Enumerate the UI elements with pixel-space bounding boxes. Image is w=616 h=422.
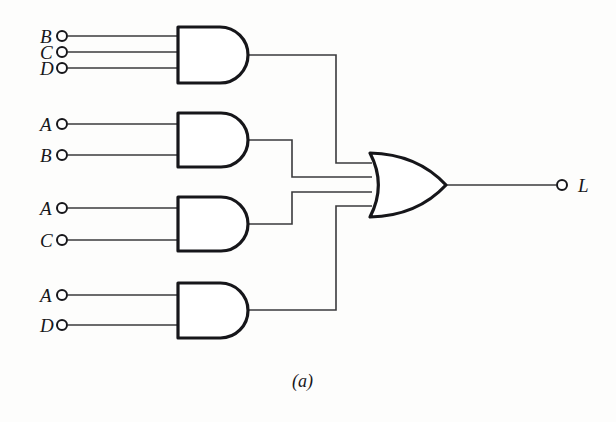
input-label-b-1-1: B	[40, 146, 52, 165]
and-gate-2-output-route	[248, 140, 372, 177]
or-gate-output	[370, 153, 446, 217]
terminal-layer	[57, 31, 567, 330]
input-terminal-a-3-0[interactable]	[57, 290, 67, 300]
figure-caption: (a)	[292, 371, 313, 392]
input-terminal-d-0-2[interactable]	[57, 63, 67, 73]
output-label-l: L	[578, 176, 589, 195]
input-terminal-a-2-0[interactable]	[57, 203, 67, 213]
input-label-a-2-0: A	[40, 199, 52, 218]
gate-layer	[178, 27, 446, 338]
input-terminal-d-3-1[interactable]	[57, 320, 67, 330]
and-gate-3-output-route	[248, 192, 372, 224]
and-gate-3	[178, 197, 248, 251]
input-label-a-1-0: A	[40, 115, 52, 134]
output-terminal-L[interactable]	[557, 180, 567, 190]
input-terminal-b-1-1[interactable]	[57, 150, 67, 160]
input-label-a-3-0: A	[40, 286, 52, 305]
input-label-d-3-1: D	[40, 316, 54, 335]
logic-circuit-figure: BCDABACADL (a)	[0, 0, 616, 422]
input-label-c-2-1: C	[40, 231, 53, 250]
input-terminal-b-0-0[interactable]	[57, 31, 67, 41]
and-gate-4-output-route	[248, 206, 372, 310]
wire-layer	[68, 36, 556, 325]
and-gate-4	[178, 283, 248, 338]
and-gate-1-output-route	[248, 55, 372, 163]
input-terminal-c-2-1[interactable]	[57, 235, 67, 245]
input-terminal-c-0-1[interactable]	[57, 47, 67, 57]
input-label-d-0-2: D	[40, 59, 54, 78]
and-gate-1	[178, 27, 248, 83]
and-gate-2	[178, 113, 248, 167]
input-terminal-a-1-0[interactable]	[57, 119, 67, 129]
circuit-schematic	[0, 0, 616, 422]
